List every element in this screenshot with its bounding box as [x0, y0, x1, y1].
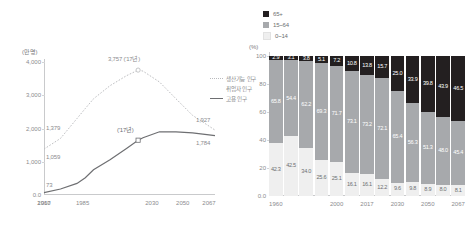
bar-value-0-14-2000: 25.1: [332, 176, 342, 182]
line-label-1379: 1,379: [46, 125, 60, 131]
legend-label-0-14: 0~14: [275, 33, 288, 39]
line-y-tick-2: 2,000: [26, 126, 41, 132]
line-x-tick-2067: 2067: [202, 200, 215, 206]
legend-label-15-64: 15~64: [273, 22, 289, 28]
bar-column-2000[interactable]: 7.271.725.1: [330, 56, 344, 196]
bar-value-65plus-2060: 43.9: [438, 84, 448, 90]
line-x-tick-2050: 2050: [176, 200, 189, 206]
bar-value-15-64-1970: 54.4: [286, 96, 296, 102]
bar-y-tick-60: 60: [259, 109, 266, 115]
line-chart-y-unit-label: (만명): [22, 47, 37, 56]
bar-segment-15-64-1970: 54.4: [284, 60, 298, 136]
bar-y-tick-100: 100: [256, 53, 266, 59]
line-y-tick-3: 3,000: [26, 92, 41, 98]
bar-column-2067[interactable]: 46.545.48.1: [451, 56, 465, 196]
legend-swatch-65plus-icon: [263, 11, 269, 17]
bar-column-1960[interactable]: 2.965.842.3: [269, 56, 283, 196]
bar-column-1990[interactable]: 5.169.325.6: [315, 56, 329, 196]
legend-item-15-64: 15~64: [263, 19, 289, 30]
legend-item-0-14: 0~14: [263, 30, 289, 41]
bar-value-65plus-2017: 13.8: [362, 63, 372, 69]
bar-column-2017[interactable]: 13.873.216.1: [360, 56, 374, 196]
legend-label-employment: 고용 인구: [226, 95, 247, 103]
bar-value-15-64-1990: 69.3: [317, 109, 327, 115]
bar-y-tick-20: 20: [259, 165, 266, 171]
bar-segment-65plus-2017: 13.8: [360, 56, 374, 75]
bar-y-tick-0: 0.0: [258, 193, 266, 199]
bar-segment-0-14-1980: 34.0: [299, 148, 313, 196]
bar-value-65plus-2050: 39.8: [423, 81, 433, 87]
legend-blank-icon: [210, 88, 223, 89]
bar-segment-15-64-1980: 62.2: [299, 61, 313, 148]
bar-value-0-14-1980: 34.0: [301, 169, 311, 175]
bar-column-2030[interactable]: 25.065.49.6: [391, 56, 405, 196]
bar-segment-65plus-2060: 43.9: [436, 56, 450, 117]
bar-segment-0-14-1960: 42.3: [269, 143, 283, 196]
line-x-tick-1985: 1985: [76, 200, 89, 206]
series-employed-population-line: [44, 132, 215, 193]
line-y-tick-0: 0.0: [33, 192, 41, 198]
age-composition-bar-chart: 65+ 15~64 0~14 (%) 0.0 20 40 60 80 100: [245, 0, 475, 238]
bar-column-2050[interactable]: 39.851.38.9: [421, 56, 435, 196]
legend-swatch-0-14-icon: [263, 32, 271, 40]
bar-value-0-14-2050: 8.9: [424, 187, 431, 193]
bar-x-tick-2017: 2017: [360, 201, 373, 207]
bar-value-15-64-2067: 45.4: [453, 150, 463, 156]
bar-x-tick-2000: 2000: [330, 201, 343, 207]
bar-value-65plus-1990: 5.1: [318, 57, 325, 63]
bar-segment-65plus-2020: 15.7: [375, 56, 389, 78]
bar-value-0-14-1970: 42.5: [286, 163, 296, 169]
bar-segment-65plus-2000: 7.2: [330, 56, 344, 66]
legend-label-65plus: 65+: [273, 11, 283, 17]
bar-x-tick-2030: 2030: [391, 201, 404, 207]
line-x-tick-2030: 2030: [145, 200, 158, 206]
bar-segment-15-64-1960: 65.8: [269, 60, 283, 143]
bar-segment-0-14-1970: 42.5: [284, 136, 298, 196]
legend-solid-line-icon: [210, 98, 223, 99]
bar-x-tick-1960: 1960: [269, 201, 282, 207]
bar-value-15-64-2020: 72.1: [377, 126, 387, 132]
bar-value-65plus-2000: 7.2: [333, 58, 340, 64]
line-y-tick-1: 1,000: [26, 159, 41, 165]
bar-segment-15-64-2060: 48.0: [436, 117, 450, 184]
bar-value-0-14-1960: 42.3: [271, 167, 281, 173]
bar-segment-0-14-2010: 16.1: [345, 173, 359, 196]
bar-value-15-64-2000: 71.7: [332, 111, 342, 117]
bar-value-0-14-1990: 25.6: [317, 175, 327, 181]
bar-value-0-14-2010: 16.1: [347, 182, 357, 188]
bar-segment-15-64-2010: 73.1: [345, 71, 359, 173]
bar-value-15-64-2017: 73.2: [362, 122, 372, 128]
bar-segment-0-14-2060: 8.0: [436, 185, 450, 196]
bar-column-1980[interactable]: 3.862.234.0: [299, 56, 313, 196]
bar-value-0-14-2040: 9.8: [409, 186, 416, 192]
bar-segment-65plus-2067: 46.5: [451, 56, 465, 121]
bar-segment-15-64-2050: 51.3: [421, 112, 435, 184]
legend-swatch-15-64-icon: [263, 22, 269, 28]
bar-column-2040[interactable]: 33.956.39.8: [406, 56, 420, 196]
bar-segment-0-14-2050: 8.9: [421, 184, 435, 196]
bar-value-65plus-2067: 46.5: [453, 86, 463, 92]
bar-column-2020[interactable]: 15.772.112.2: [375, 56, 389, 196]
line-label-1784: 1,784: [196, 140, 210, 146]
bar-value-15-64-2030: 65.4: [393, 134, 403, 140]
bar-segment-0-14-2000: 25.1: [330, 162, 344, 196]
bar-chart-legend: 65+ 15~64 0~14: [263, 8, 289, 41]
bar-segment-65plus-2030: 25.0: [391, 56, 405, 91]
bar-chart-plot-area: 0.0 20 40 60 80 100 2.965.842.33.154.442…: [269, 56, 465, 196]
bar-chart-y-unit-label: (%): [249, 44, 258, 50]
bar-segment-15-64-2017: 73.2: [360, 75, 374, 174]
line-label-2017-employed: ('17년): [117, 125, 134, 134]
bar-segment-65plus-2040: 33.9: [406, 56, 420, 103]
bar-value-0-14-2030: 9.6: [394, 186, 401, 192]
bar-column-2010[interactable]: 10.873.116.1: [345, 56, 359, 196]
bar-segment-0-14-1990: 25.6: [315, 160, 329, 196]
bar-column-2060[interactable]: 43.948.08.0: [436, 56, 450, 196]
line-x-tick-2017: 2017: [37, 200, 50, 206]
bar-value-0-14-2060: 8.0: [440, 187, 447, 193]
marker-employed-2017: [136, 138, 140, 142]
bar-y-tick-80: 80: [259, 81, 266, 87]
bar-value-0-14-2067: 8.1: [455, 188, 462, 194]
bar-segment-15-64-2040: 56.3: [406, 103, 420, 182]
bar-y-tick-40: 40: [259, 137, 266, 143]
bar-column-1970[interactable]: 3.154.442.5: [284, 56, 298, 196]
